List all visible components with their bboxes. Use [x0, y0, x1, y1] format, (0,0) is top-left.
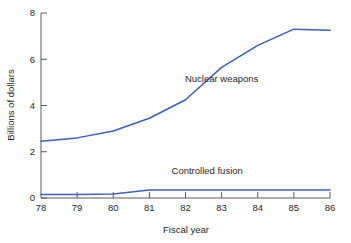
x-tick-label: 84 [252, 202, 263, 213]
y-tick-label: 6 [30, 54, 35, 65]
x-axis-title: Fiscal year [163, 224, 209, 235]
series-label-nuclear-weapons: Nuclear weapons [185, 73, 259, 84]
x-tick-label: 78 [36, 202, 47, 213]
y-axis-tick-labels: 02468 [30, 7, 35, 203]
series-annotation-labels: Nuclear weaponsControlled fusion [172, 73, 259, 175]
series-line-nuclear-weapons [41, 29, 330, 141]
x-tick-label: 83 [216, 202, 227, 213]
x-tick-label: 81 [144, 202, 155, 213]
x-axis-ticks [77, 192, 330, 198]
y-axis-ticks [41, 13, 47, 198]
x-tick-label: 85 [289, 202, 300, 213]
x-axis-tick-labels: 787980818283848586 [36, 202, 336, 213]
x-tick-label: 86 [325, 202, 336, 213]
y-tick-label: 0 [30, 192, 35, 203]
x-tick-label: 80 [108, 202, 119, 213]
y-tick-label: 8 [30, 7, 35, 18]
y-tick-label: 2 [30, 146, 35, 157]
series-label-controlled-fusion: Controlled fusion [172, 165, 243, 176]
x-tick-label: 82 [180, 202, 191, 213]
y-axis-title: Billions of dollars [5, 69, 16, 141]
chart-figure: 02468 787980818283848586 Nuclear weapons… [0, 0, 351, 243]
x-tick-label: 79 [72, 202, 83, 213]
line-chart-canvas: 02468 787980818283848586 Nuclear weapons… [0, 0, 351, 243]
y-tick-label: 4 [30, 100, 35, 111]
